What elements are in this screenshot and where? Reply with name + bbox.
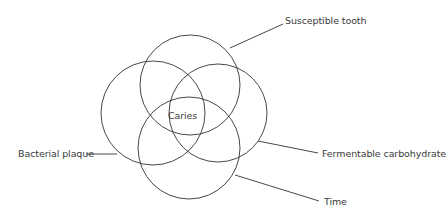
leader-line-fermentable-carbohydrate (258, 141, 318, 153)
label-bacterial-plaque: Bacterial plaque (18, 149, 94, 159)
label-caries-center: Caries (168, 111, 197, 121)
leader-line-susceptible-tooth (230, 24, 283, 48)
label-time: Time (324, 197, 347, 207)
caries-venn-diagram: Susceptible tooth Bacterial plaque Ferme… (0, 0, 448, 220)
label-fermentable-carbohydrate: Fermentable carbohydrate (322, 149, 446, 159)
leader-line-time (235, 175, 319, 201)
venn-drawing (0, 0, 448, 220)
label-susceptible-tooth: Susceptible tooth (285, 16, 366, 26)
